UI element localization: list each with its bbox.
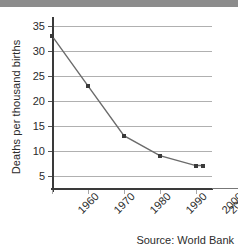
x-tick-label: 1960	[75, 190, 101, 216]
chart-figure: Deaths per thousand births 5101520253035…	[0, 7, 238, 251]
plot-area: 5101520253035	[52, 21, 212, 188]
y-tick-label: 20	[33, 95, 45, 107]
data-point	[86, 84, 90, 88]
top-gray-band	[0, 0, 238, 7]
x-tick-label: 1980	[147, 190, 173, 216]
x-axis-labels: 196019701980199020002002	[52, 188, 238, 233]
data-point	[194, 164, 198, 168]
y-tick-label: 10	[33, 145, 45, 157]
data-point	[158, 154, 162, 158]
data-point	[201, 164, 205, 168]
x-tick-label: 1990	[183, 190, 209, 216]
x-tick-label: 1970	[111, 190, 137, 216]
data-point	[122, 134, 126, 138]
y-tick-label: 25	[33, 70, 45, 82]
data-point	[50, 34, 54, 38]
y-axis-title: Deaths per thousand births	[10, 27, 22, 187]
y-tick-label: 30	[33, 45, 45, 57]
y-tick-label: 15	[33, 120, 45, 132]
series-line	[52, 21, 212, 188]
y-tick-label: 35	[33, 20, 45, 32]
y-tick-label: 5	[39, 170, 45, 182]
source-note: Source: World Bank	[136, 234, 234, 246]
